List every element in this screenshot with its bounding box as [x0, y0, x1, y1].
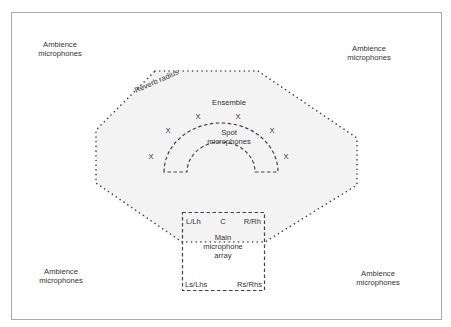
- channel-rs-label: Rs/Rhs: [237, 280, 262, 289]
- spot-microphones-label-line1: Spot: [221, 128, 238, 137]
- ensemble-marker: X: [283, 152, 288, 161]
- spot-microphones-label-line2: microphones: [207, 137, 251, 146]
- ambience-label-line1: Ambience: [44, 267, 78, 276]
- main-array-label-line1: Main: [215, 233, 231, 242]
- ensemble-label: Ensemble: [212, 98, 246, 107]
- ambience-label-line1: Ambience: [361, 269, 395, 278]
- ambience-top-right: Ambience microphones: [347, 44, 391, 62]
- ambience-label-line1: Ambience: [43, 40, 77, 49]
- ambience-label-line2: microphones: [356, 278, 400, 287]
- ensemble-marker: X: [235, 112, 240, 121]
- ensemble-marker: X: [148, 152, 153, 161]
- ensemble-marker: X: [195, 112, 200, 121]
- main-array-label-line2: microphone: [203, 242, 243, 251]
- ambience-label-line2: microphones: [38, 49, 82, 58]
- ensemble-marker: X: [269, 126, 274, 135]
- main-array-label-line3: array: [214, 251, 232, 260]
- ensemble-marker: X: [165, 126, 170, 135]
- channel-l-label: L/Lh: [186, 217, 201, 226]
- ambience-top-left: Ambience microphones: [38, 40, 82, 58]
- ambience-label-line2: microphones: [347, 53, 391, 62]
- channel-r-label: R/Rh: [244, 217, 261, 226]
- channel-ls-label: Ls/Lhs: [185, 280, 208, 289]
- ambience-bottom-left: Ambience microphones: [39, 267, 83, 285]
- ambience-bottom-right: Ambience microphones: [356, 269, 400, 287]
- microphone-placement-diagram: Reverb radius Ambience microphones Ambie…: [0, 0, 451, 327]
- channel-c-label: C: [220, 217, 226, 226]
- ambience-label-line2: microphones: [39, 276, 83, 285]
- ambience-label-line1: Ambience: [352, 44, 386, 53]
